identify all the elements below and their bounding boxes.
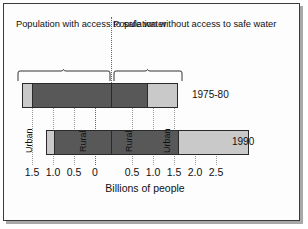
bar-1975-80 xyxy=(22,83,178,108)
group-header-without-access: Population without access to safe water xyxy=(113,19,210,31)
bar-label-1990: 1990 xyxy=(232,136,254,147)
inline-label-rural-left: Rural xyxy=(78,130,88,152)
chart-figure: Population with access to safe water Pop… xyxy=(0,0,308,229)
bar-1975-80-segment-urban-without-access xyxy=(147,83,178,108)
bar-1975-80-segment-rural-without-access xyxy=(111,83,148,108)
xtick-label-pos-2.5: 2.5 xyxy=(204,166,228,178)
bracket-left xyxy=(17,69,111,82)
bracket-right xyxy=(113,69,183,82)
group-header-with-access: Population with access to safe water xyxy=(16,19,110,31)
bar-1990 xyxy=(46,130,249,155)
bar-1975-80-segment-rural-with-access xyxy=(32,83,112,108)
x-axis-title: Billions of people xyxy=(0,182,290,194)
inline-label-urban-left: Urban xyxy=(24,128,34,153)
inline-label-rural-right: Rural xyxy=(124,130,134,152)
xtick-label-zero: 0 xyxy=(83,166,107,178)
inline-label-urban-right: Urban xyxy=(162,128,172,153)
center-divider xyxy=(111,17,112,83)
plot-area: Population with access to safe water Pop… xyxy=(0,0,308,229)
bar-label-1975-80: 1975-80 xyxy=(192,89,229,100)
